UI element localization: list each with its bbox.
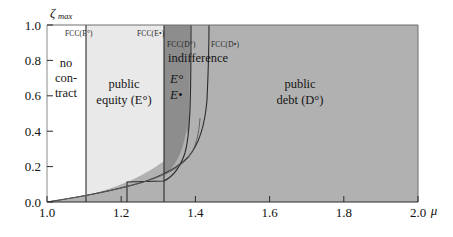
curve-label-fcc-d0: FCC(D°) [167, 40, 196, 49]
x-tick-label: 1.0 [39, 205, 55, 220]
y-axis-label-subscript: max [58, 11, 72, 21]
region-label-public-equity-line2: equity (E°) [96, 93, 151, 107]
annotations: E° E• [169, 71, 183, 102]
x-axis-label: μ [430, 203, 438, 218]
region-label-indifference: indifference [168, 51, 229, 65]
x-tick-label: 1.6 [261, 205, 278, 220]
region-label-public-debt-line1: public [284, 77, 316, 91]
region-label-public-equity-line1: public [108, 77, 140, 91]
x-tick-labels: 1.0 1.2 1.4 1.6 1.8 2.0 [39, 205, 426, 220]
x-tick-label: 1.2 [113, 205, 129, 220]
x-tick-label: 2.0 [410, 205, 426, 220]
curve-label-fcc-e0: FCC(E°) [65, 29, 93, 38]
y-tick-label: 0.4 [25, 124, 42, 139]
y-tick-label: 1.0 [25, 18, 41, 33]
region-label-public-debt-line2: debt (D°) [277, 93, 324, 107]
region-label-no-contract-line3: tract [55, 86, 78, 100]
figure-container: 0.0 0.2 0.4 0.6 0.8 1.0 1.0 1.2 1.4 1.6 … [0, 0, 453, 237]
annotation-e0: E° [169, 71, 183, 86]
region-label-no-contract-line2: con- [55, 71, 77, 85]
x-tick-label: 1.8 [336, 205, 352, 220]
annotation-estar: E• [169, 87, 183, 102]
y-tick-labels: 0.0 0.2 0.4 0.6 0.8 1.0 [25, 18, 42, 210]
curve-label-fcc-estar: FCC(E•) [137, 29, 165, 38]
y-axis-label: ζ max [50, 5, 72, 21]
x-tick-label: 1.4 [187, 205, 204, 220]
y-tick-label: 0.6 [25, 88, 42, 103]
y-axis-label-symbol: ζ [50, 5, 56, 20]
y-tick-label: 0.8 [25, 53, 41, 68]
phase-diagram-chart: 0.0 0.2 0.4 0.6 0.8 1.0 1.0 1.2 1.4 1.6 … [0, 0, 453, 237]
plot-regions [47, 25, 418, 202]
y-tick-label: 0.2 [25, 159, 41, 174]
curve-label-fcc-dstar: FCC(D•) [211, 40, 240, 49]
region-label-no-contract-line1: no [60, 56, 73, 70]
